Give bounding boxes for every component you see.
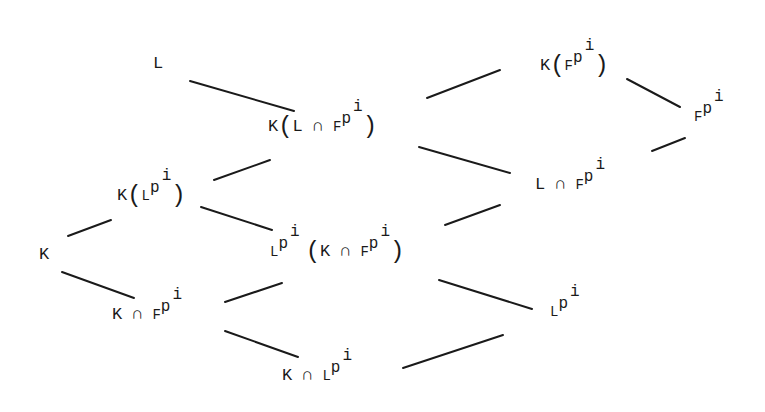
glyph-p: p [558,295,568,313]
edge-K_L_cap_Fpi-to-K_Fpi [427,70,500,98]
edge-K_Lpi-to-K_L_cap_Fpi [214,160,270,180]
glyph-lparen: ( [127,182,141,209]
glyph-i: i [342,347,352,365]
glyph-rparen: ) [390,238,404,265]
glyph-L: L [293,117,303,136]
glyph-rparen: ) [594,52,608,79]
glyph-L: L [142,188,150,204]
glyph-i: i [162,167,172,185]
node-Lpi: Lpi [550,303,580,320]
edge-K_Lpi-to-Lpi_K_cap_Fpi [201,207,272,230]
node-L-label: L [153,54,163,73]
glyph-K: K [117,186,127,205]
glyph-i: i [380,223,390,241]
glyph-K: K [540,56,550,75]
glyph-K: K [112,305,122,324]
glyph-intersection: ∩ [302,366,312,385]
glyph-p: p [369,235,379,253]
glyph-i: i [290,223,300,241]
glyph-p: p [702,100,712,118]
edge-K-to-K_Lpi [68,220,111,236]
edge-L-to-K_L_cap_Fpi [190,81,294,111]
glyph-rparen: ) [171,182,185,209]
node-K-cap-Fpi: K∩Fpi [112,306,182,323]
glyph-intersection: ∩ [340,242,350,261]
glyph-p: p [584,168,594,186]
node-K-of-Lpi: K(Lpi) [117,182,186,206]
glyph-L: L [322,368,330,384]
edge-K_cap_Fpi-to-Lpi_K_cap_Fpi [225,283,282,302]
glyph-p: p [331,359,341,377]
glyph-i: i [172,286,182,304]
field-lattice-diagram: L K(L∩Fpi) K(Fpi) Fpi L∩Fpi K(Lpi) K Lpi… [0,0,765,412]
edge-K_cap_Fpi-to-K_cap_Lpi [225,331,298,357]
edge-K_L_cap_Fpi-to-L_cap_Fpi [419,147,510,173]
glyph-F: F [360,244,368,260]
glyph-p: p [161,298,171,316]
glyph-rparen: ) [363,113,377,140]
glyph-intersection: ∩ [313,117,323,136]
glyph-K: K [39,245,49,264]
glyph-p: p [573,49,583,67]
glyph-lparen: ( [550,52,564,79]
glyph-F: F [575,177,583,193]
glyph-L: L [535,175,545,194]
node-K-cap-Lpi: K∩Lpi [282,367,352,384]
glyph-K: K [320,242,330,261]
glyph-lparen: ( [306,238,320,265]
node-K-of-Fpi: K(Fpi) [540,52,609,76]
edge-K-to-K_cap_Fpi [62,272,134,298]
edge-L_cap_Fpi-to-Fpi [652,138,685,151]
node-K: K [39,246,49,263]
node-L-cap-Fpi: L∩Fpi [535,176,605,193]
glyph-p: p [341,110,351,128]
glyph-F: F [152,307,160,323]
glyph-i: i [595,156,605,174]
glyph-i: i [570,283,580,301]
glyph-intersection: ∩ [555,175,565,194]
glyph-i: i [714,88,724,106]
edge-Lpi_K_cap_Fpi-to-L_cap_Fpi [445,205,500,225]
glyph-K: K [282,366,292,385]
glyph-i: i [585,37,595,55]
glyph-i: i [353,98,363,116]
node-L: L [153,55,163,72]
lattice-edges [0,0,765,412]
glyph-p: p [150,179,160,197]
glyph-p: p [278,235,288,253]
glyph-intersection: ∩ [132,305,142,324]
glyph-K: K [268,117,278,136]
node-K-of-L-cap-Fpi: K(L∩Fpi) [268,113,377,137]
edge-Lpi_K_cap_Fpi-to-Lpi [439,280,532,309]
node-Lpi-of-K-cap-Fpi: Lpi(K∩Fpi) [270,238,404,262]
node-Fpi: Fpi [694,108,724,125]
glyph-lparen: ( [278,113,292,140]
edge-K_cap_Lpi-to-Lpi [403,335,503,368]
glyph-F: F [565,58,573,74]
edge-K_Fpi-to-Fpi [627,79,680,107]
